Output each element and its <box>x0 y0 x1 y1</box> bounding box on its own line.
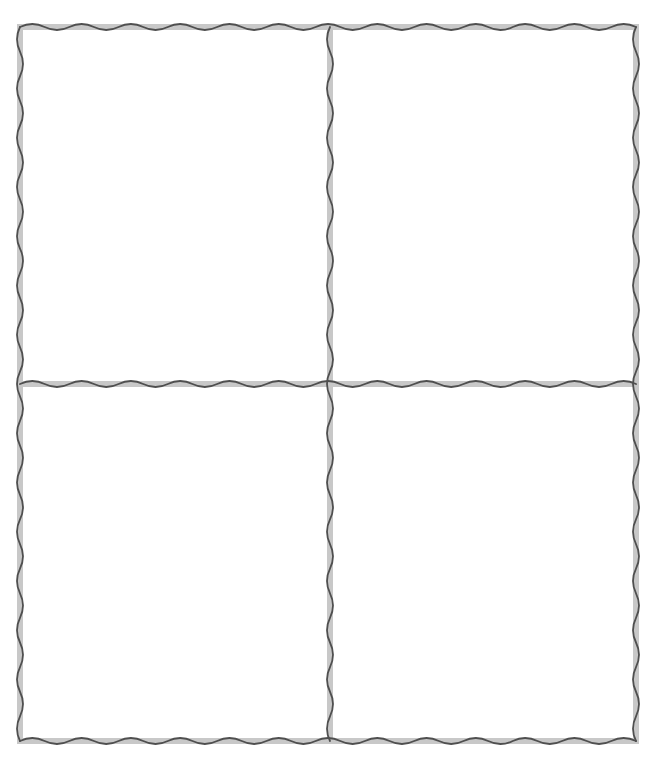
wavy-grid-borders <box>0 0 659 768</box>
panel-grid <box>0 0 659 768</box>
